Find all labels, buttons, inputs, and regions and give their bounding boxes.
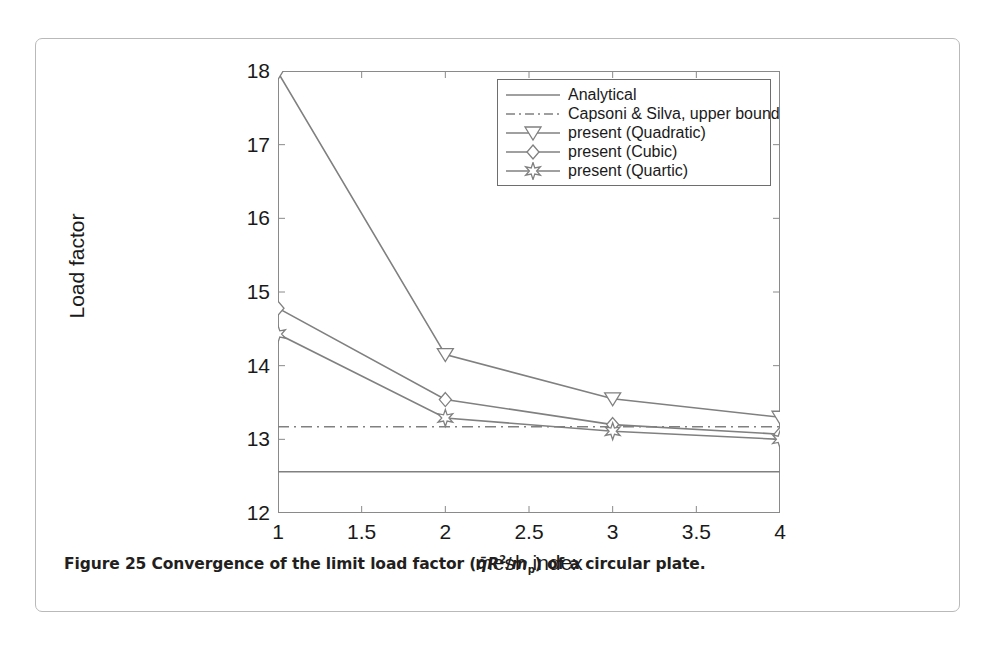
y-axis-title: Load factor	[65, 196, 89, 336]
x-tick-label: 4	[774, 521, 786, 542]
chart-plot-area: 12131415161718 11.522.533.54 Load factor…	[36, 39, 961, 613]
x-tick-label: 1	[272, 521, 284, 542]
legend-swatch-none-icon	[504, 86, 562, 104]
chart-legend: AnalyticalCapsoni & Silva, upper boundpr…	[497, 79, 771, 186]
x-tick-label: 3.5	[682, 521, 711, 542]
legend-label: Capsoni & Silva, upper bound	[568, 105, 780, 123]
legend-swatch-triangle-down-icon	[504, 124, 562, 142]
legend-label: present (Cubic)	[568, 143, 677, 161]
x-axis-tick-labels: 11.522.533.54	[278, 521, 780, 549]
legend-label: Analytical	[568, 86, 636, 104]
figure-caption: Figure 25 Convergence of the limit load …	[64, 554, 944, 575]
legend-label: present (Quadratic)	[568, 124, 706, 142]
y-tick-label: 16	[247, 207, 270, 228]
y-tick-label: 15	[247, 281, 270, 302]
legend-item: Analytical	[504, 85, 764, 104]
y-tick-label: 14	[247, 355, 270, 376]
y-tick-label: 18	[247, 60, 270, 81]
y-tick-label: 12	[247, 502, 270, 523]
x-tick-label: 3	[607, 521, 619, 542]
x-tick-label: 1.5	[347, 521, 376, 542]
legend-item: present (Quartic)	[504, 161, 764, 180]
x-tick-label: 2.5	[514, 521, 543, 542]
legend-item: present (Quadratic)	[504, 123, 764, 142]
y-tick-label: 13	[247, 428, 270, 449]
legend-swatch-diamond-icon	[504, 143, 562, 161]
legend-label: present (Quartic)	[568, 162, 688, 180]
legend-swatch-none-icon	[504, 105, 562, 123]
x-tick-label: 2	[439, 521, 451, 542]
legend-item: Capsoni & Silva, upper bound	[504, 104, 764, 123]
legend-item: present (Cubic)	[504, 142, 764, 161]
figure-card: 12131415161718 11.522.533.54 Load factor…	[35, 38, 960, 612]
legend-swatch-star-icon	[504, 162, 562, 180]
y-tick-label: 17	[247, 134, 270, 155]
y-axis-tick-labels: 12131415161718	[226, 39, 270, 559]
